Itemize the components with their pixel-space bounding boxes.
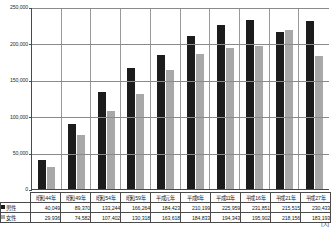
table-value-cell: 29,936: [31, 213, 61, 223]
bar-female: [136, 94, 144, 189]
legend-label: 女性: [6, 215, 16, 221]
table-column-header: 平成16年: [241, 193, 271, 203]
bar-male: [127, 68, 135, 189]
bar-male: [246, 20, 254, 189]
table-header-row: 昭和44年昭和49年昭和54年昭和59年平成元年平成6年平成11年平成16年平成…: [1, 193, 331, 203]
table-row: 男性40,04989,370133,244166,264184,423210,1…: [1, 203, 331, 213]
gridline: [32, 117, 329, 118]
plot-wrapper: 050,000100,000150,000200,000250,000: [0, 0, 331, 192]
table-value-cell: 210,199: [181, 203, 211, 213]
bar-male: [276, 32, 284, 189]
table-value-cell: 166,264: [121, 203, 151, 213]
table-value-cell: 184,423: [151, 203, 181, 213]
bar-female: [77, 135, 85, 189]
table-value-cell: 231,851: [241, 203, 271, 213]
gridline: [32, 81, 329, 82]
bar-group: [32, 8, 62, 189]
table-column-header: 平成11年: [211, 193, 241, 203]
table-column-header: 平成元年: [151, 193, 181, 203]
bar-male: [98, 92, 106, 189]
y-tick-label: 250,000: [10, 5, 28, 10]
legend-label: 男性: [6, 205, 16, 211]
bar-male: [157, 55, 165, 189]
table-row: 女性29,93674,582107,402130,318163,618184,8…: [1, 213, 331, 223]
bar-female: [107, 111, 115, 189]
bar-group: [240, 8, 270, 189]
table-value-cell: 184,833: [181, 213, 211, 223]
bar-female: [47, 167, 55, 189]
table-value-cell: 194,343: [211, 213, 241, 223]
table-value-cell: 74,582: [61, 213, 91, 223]
bar-group: [62, 8, 92, 189]
y-axis-tickmark: [29, 190, 32, 191]
bar-male: [217, 25, 225, 189]
legend-cell-female: 女性: [1, 213, 31, 223]
y-axis-labels: 050,000100,000150,000200,000250,000: [0, 0, 30, 192]
bar-group: [91, 8, 121, 189]
table-value-cell: 225,959: [211, 203, 241, 213]
table-value-cell: 215,515: [271, 203, 301, 213]
table-column-header: 平成6年: [181, 193, 211, 203]
plot-area: [31, 8, 329, 190]
bar-male: [187, 36, 195, 189]
bars-layer: [32, 8, 329, 189]
gridline: [32, 154, 329, 155]
gridline: [32, 8, 329, 9]
table-column-header: 平成21年: [271, 193, 301, 203]
bar-female: [196, 54, 204, 189]
bar-group: [121, 8, 151, 189]
table-value-cell: 40,049: [31, 203, 61, 213]
table-value-cell: 107,402: [91, 213, 121, 223]
y-tick-label: 100,000: [10, 115, 28, 120]
table-column-header: 平成27年: [301, 193, 331, 203]
legend-cell-male: 男性: [1, 203, 31, 213]
table-column-header: 昭和49年: [61, 193, 91, 203]
table-value-cell: 218,156: [271, 213, 301, 223]
legend-swatch-icon: [1, 205, 5, 209]
bar-female: [226, 48, 234, 189]
bar-female: [166, 70, 174, 189]
table-head: 昭和44年昭和49年昭和54年昭和59年平成元年平成6年平成11年平成16年平成…: [1, 193, 331, 203]
y-tick-label: 200,000: [10, 42, 28, 47]
table-body: 男性40,04989,370133,244166,264184,423210,1…: [1, 203, 331, 223]
bar-group: [270, 8, 300, 189]
bar-male: [306, 21, 314, 189]
table-value-cell: 89,370: [61, 203, 91, 213]
table-corner-cell: [1, 193, 31, 203]
table-value-cell: 163,618: [151, 213, 181, 223]
bar-group: [210, 8, 240, 189]
bar-male: [68, 124, 76, 189]
table-value-cell: 130,318: [121, 213, 151, 223]
table-column-header: 昭和54年: [91, 193, 121, 203]
legend-swatch-icon: [1, 215, 5, 219]
bar-group: [299, 8, 329, 189]
table-value-cell: 195,902: [241, 213, 271, 223]
table-value-cell: 230,433: [301, 203, 331, 213]
bar-chart-with-data-table: 050,000100,000150,000200,000250,000 昭和44…: [0, 0, 331, 233]
y-tick-label: 150,000: [10, 78, 28, 83]
table-column-header: 昭和59年: [121, 193, 151, 203]
table-value-cell: 133,244: [91, 203, 121, 213]
y-tick-label: 50,000: [13, 151, 28, 156]
gridline: [32, 44, 329, 45]
bar-female: [315, 56, 323, 189]
bar-group: [181, 8, 211, 189]
unit-label: [人]: [321, 221, 329, 227]
bar-group: [151, 8, 181, 189]
bar-male: [38, 160, 46, 189]
bar-female: [285, 30, 293, 189]
table-column-header: 昭和44年: [31, 193, 61, 203]
data-table: 昭和44年昭和49年昭和54年昭和59年平成元年平成6年平成11年平成16年平成…: [0, 192, 331, 223]
